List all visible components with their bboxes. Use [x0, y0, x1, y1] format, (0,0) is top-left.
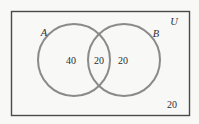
universal-set-label: U — [170, 17, 178, 28]
region-count-a-only: 40 — [66, 56, 76, 66]
venn-diagram-figure: U A B 40 20 20 20 — [0, 0, 199, 124]
region-count-outside: 20 — [167, 100, 177, 110]
set-b-label: B — [153, 29, 159, 40]
set-a-label: A — [41, 28, 47, 39]
region-count-intersection: 20 — [94, 56, 104, 66]
region-count-b-only: 20 — [118, 56, 128, 66]
